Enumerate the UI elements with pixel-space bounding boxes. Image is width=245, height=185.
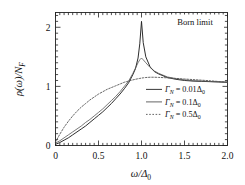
born-limit-annotation: Born limit <box>166 15 224 29</box>
y-tick-label: 2 <box>46 23 51 33</box>
x-tick-label: 2.0 <box>222 151 234 161</box>
y-tick-label: 1 <box>46 82 51 92</box>
x-tick-label: 1.5 <box>179 151 191 161</box>
x-tick-label: 0.5 <box>93 151 105 161</box>
x-axis-title-sub: 0 <box>147 173 151 182</box>
x-axis-title-main: ω/Δ <box>131 168 148 179</box>
density-of-states-plot: 00.51.01.52.0 012 Born limit ΓN = 0.01Δ0… <box>0 0 245 185</box>
born-limit-label: Born limit <box>177 17 213 27</box>
y-axis-title-main: ρ(ω)/N <box>13 66 25 97</box>
x-tick-label: 1.0 <box>136 151 148 161</box>
chart-figure: 00.51.01.52.0 012 Born limit ΓN = 0.01Δ0… <box>0 0 245 185</box>
x-tick-label: 0 <box>53 151 58 161</box>
legend-label-1: ΓN = 0.1Δ0 <box>164 98 201 108</box>
y-tick-label: 0 <box>46 141 51 151</box>
legend-label-2: ΓN = 0.5Δ0 <box>164 110 201 120</box>
y-axis-title-sub: F <box>18 62 27 68</box>
